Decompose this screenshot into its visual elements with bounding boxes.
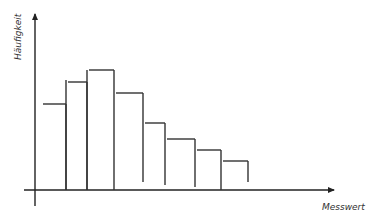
y-axis-label: Häufigkeit <box>13 13 23 60</box>
x-axis-label: Messwert <box>322 202 365 212</box>
histogram-bars <box>43 70 248 190</box>
histogram-sketch: Häufigkeit Messwert <box>0 0 381 221</box>
